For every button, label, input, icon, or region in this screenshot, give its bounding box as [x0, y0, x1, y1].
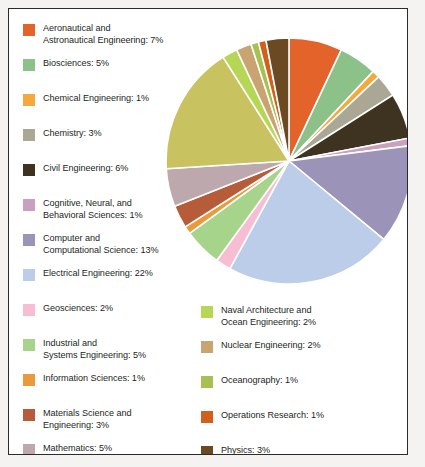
legend-item-label: Operations Research: 1% [221, 410, 324, 422]
legend-item-label: Biosciences: 5% [43, 58, 109, 70]
legend-item[interactable]: Mathematics: 5% [23, 443, 203, 455]
legend-item-label: Geosciences: 2% [43, 303, 113, 315]
legend-swatch-icon [201, 306, 213, 318]
legend-item-label: Materials Science andEngineering: 3% [43, 408, 131, 431]
legend-swatch-icon [23, 374, 35, 386]
legend-swatch-icon [23, 409, 35, 421]
legend-swatch-icon [23, 129, 35, 141]
legend-item-label: Nuclear Engineering: 2% [221, 340, 320, 352]
legend-item[interactable]: Computer andComputational Science: 13% [23, 233, 203, 259]
legend-swatch-icon [23, 269, 35, 281]
legend-item[interactable]: Chemistry: 3% [23, 128, 203, 154]
legend-item[interactable]: Aeronautical andAstronautical Engineerin… [23, 23, 203, 49]
chart-frame: Aeronautical andAstronautical Engineerin… [8, 8, 408, 455]
legend-item[interactable]: Chemical Engineering: 1% [23, 93, 203, 119]
legend-item-label: Electrical Engineering: 22% [43, 268, 153, 280]
legend-swatch-icon [23, 304, 35, 316]
legend-swatch-icon [23, 59, 35, 71]
legend-item[interactable]: Operations Research: 1% [201, 410, 401, 436]
legend-item-label: Naval Architecture andOcean Engineering:… [221, 305, 316, 328]
legend-item[interactable]: Nuclear Engineering: 2% [201, 340, 401, 366]
legend-swatch-icon [201, 446, 213, 455]
legend-right-column: Naval Architecture andOcean Engineering:… [201, 305, 401, 455]
legend-item-label: Oceanography: 1% [221, 375, 298, 387]
legend-item-label: Cognitive, Neural, andBehavioral Science… [43, 198, 142, 221]
legend-swatch-icon [23, 234, 35, 246]
legend-swatch-icon [23, 339, 35, 351]
legend-item-label: Mathematics: 5% [43, 443, 112, 455]
legend-item[interactable]: Physics: 3% [201, 445, 401, 455]
legend-swatch-icon [201, 411, 213, 423]
legend-left-column: Aeronautical andAstronautical Engineerin… [23, 23, 203, 455]
legend-item-label: Chemical Engineering: 1% [43, 93, 149, 105]
legend-swatch-icon [23, 94, 35, 106]
legend-item-label: Physics: 3% [221, 445, 270, 455]
legend-item-label: Information Sciences: 1% [43, 373, 145, 385]
legend-swatch-icon [201, 376, 213, 388]
legend-item[interactable]: Geosciences: 2% [23, 303, 203, 329]
legend-swatch-icon [23, 164, 35, 176]
legend-item-label: Computer andComputational Science: 13% [43, 233, 158, 256]
legend-item[interactable]: Oceanography: 1% [201, 375, 401, 401]
legend-item[interactable]: Industrial andSystems Engineering: 5% [23, 338, 203, 364]
legend-swatch-icon [23, 444, 35, 455]
legend-item-label: Civil Engineering: 6% [43, 163, 128, 175]
legend-item[interactable]: Materials Science andEngineering: 3% [23, 408, 203, 434]
legend-item[interactable]: Naval Architecture andOcean Engineering:… [201, 305, 401, 331]
legend-swatch-icon [201, 341, 213, 353]
legend-item[interactable]: Information Sciences: 1% [23, 373, 203, 399]
legend-item-label: Aeronautical andAstronautical Engineerin… [43, 23, 163, 46]
legend-item-label: Industrial andSystems Engineering: 5% [43, 338, 146, 361]
legend-item[interactable]: Cognitive, Neural, andBehavioral Science… [23, 198, 203, 224]
legend-swatch-icon [23, 199, 35, 211]
legend-item-label: Chemistry: 3% [43, 128, 101, 140]
legend-swatch-icon [23, 24, 35, 36]
legend-item[interactable]: Civil Engineering: 6% [23, 163, 203, 189]
legend-item[interactable]: Biosciences: 5% [23, 58, 203, 84]
legend-item[interactable]: Electrical Engineering: 22% [23, 268, 203, 294]
